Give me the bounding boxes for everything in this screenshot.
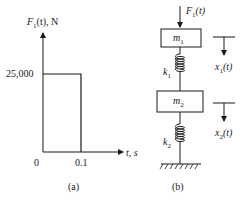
y-axis-label: F1(t), N: [27, 17, 58, 30]
caption-b: (b): [172, 182, 184, 192]
pulse-chart: [43, 33, 123, 152]
spring-1-label: k1: [163, 67, 171, 80]
spring-2: [176, 124, 185, 142]
x-axis-label: t, s: [126, 148, 138, 158]
displacement-2-indicator: [213, 103, 235, 121]
x-tick-0-1: 0.1: [75, 158, 88, 168]
mass-2-label: m2: [173, 96, 184, 109]
displacement-1-indicator: [213, 37, 235, 55]
diagram-canvas: [0, 0, 245, 201]
spring-1: [176, 54, 185, 72]
caption-a: (a): [68, 182, 79, 192]
ground-hatch: [160, 164, 198, 169]
y-tick-25000: 25,000: [6, 69, 34, 79]
displacement-2-label: x2(t): [215, 128, 232, 141]
pulse-line: [43, 74, 81, 152]
mass-1-label: m1: [173, 33, 184, 46]
x-tick-0: 0: [34, 158, 39, 168]
displacement-1-label: x1(t): [215, 62, 232, 75]
spring-2-label: k2: [163, 137, 171, 150]
force-label: F1(t): [186, 6, 205, 19]
